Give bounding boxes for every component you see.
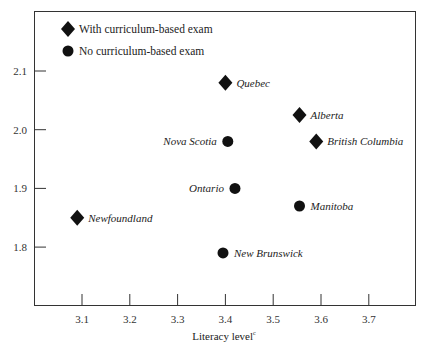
data-points: QuebecAlbertaBritish ColumbiaNewfoundlan… — [70, 75, 404, 259]
data-point: New Brunswick — [218, 247, 304, 259]
legend-label: With curriculum-based exam — [79, 23, 213, 35]
x-tick-label: 3.6 — [314, 313, 328, 325]
point-label: New Brunswick — [233, 247, 304, 259]
y-tick-label: 1.8 — [13, 241, 27, 253]
y-tick-label: 1.9 — [13, 182, 27, 194]
y-axis: 2.12.01.91.8 — [13, 65, 46, 253]
circle-marker-icon — [218, 247, 229, 258]
point-label: Newfoundland — [87, 212, 153, 224]
data-point: British Columbia — [309, 133, 404, 149]
x-tick-label: 3.4 — [219, 313, 233, 325]
data-point: Ontario — [189, 182, 240, 194]
circle-marker-icon — [222, 136, 233, 147]
x-tick-label: 3.2 — [123, 313, 137, 325]
data-point: Manitoba — [294, 200, 354, 212]
data-point: Nova Scotia — [162, 135, 233, 147]
y-tick-label: 2.0 — [13, 124, 27, 136]
x-axis-title: Literacy levelc — [192, 330, 256, 342]
scatter-chart: 2.12.01.91.8 3.13.23.33.43.53.63.7 With … — [0, 0, 426, 353]
legend: With curriculum-based examNo curriculum-… — [61, 21, 213, 57]
circle-marker-icon — [294, 201, 305, 212]
data-point: Newfoundland — [70, 210, 153, 226]
legend-label: No curriculum-based exam — [79, 45, 204, 57]
circle-legend-icon — [63, 46, 74, 57]
point-label: Nova Scotia — [162, 135, 217, 147]
diamond-marker-icon — [292, 107, 306, 123]
x-tick-label: 3.7 — [362, 313, 376, 325]
diamond-marker-icon — [218, 75, 232, 91]
point-label: Alberta — [309, 109, 343, 121]
x-axis-title-text: Literacy level — [192, 330, 253, 342]
data-point: Alberta — [292, 107, 343, 123]
x-axis: 3.13.23.33.43.53.63.7 — [75, 294, 376, 325]
circle-marker-icon — [229, 183, 240, 194]
y-tick-label: 2.1 — [13, 65, 27, 77]
diamond-marker-icon — [309, 133, 323, 149]
point-label: British Columbia — [327, 135, 404, 147]
point-label: Ontario — [189, 182, 224, 194]
x-axis-title-superscript: c — [253, 330, 256, 336]
diamond-marker-icon — [70, 210, 84, 226]
x-tick-label: 3.3 — [171, 313, 185, 325]
x-tick-label: 3.1 — [75, 313, 89, 325]
point-label: Quebec — [236, 77, 270, 89]
x-tick-label: 3.5 — [266, 313, 280, 325]
diamond-legend-icon — [61, 21, 75, 37]
data-point: Quebec — [218, 75, 270, 91]
point-label: Manitoba — [309, 200, 353, 212]
